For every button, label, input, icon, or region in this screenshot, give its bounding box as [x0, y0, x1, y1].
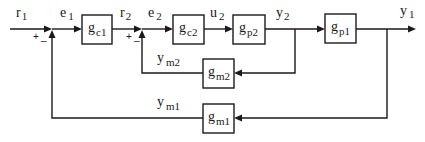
arrow-y2-icon — [317, 26, 325, 33]
arrow-gm2-in-icon — [234, 70, 242, 77]
arrow-y1-icon — [408, 26, 416, 33]
arrow-ym1-icon — [49, 30, 56, 38]
arrow-e1-icon — [74, 26, 82, 33]
label-r1: r1 — [16, 5, 27, 22]
inner-junction-minus: _ — [133, 31, 140, 42]
label-ym2: ym2 — [157, 50, 180, 68]
label-y2: y2 — [276, 5, 290, 22]
block-gp1: gp1 — [325, 14, 356, 43]
label-y1: y1 — [400, 3, 415, 20]
arrow-u2-icon — [225, 26, 233, 33]
block-gp2: gp2 — [233, 15, 265, 44]
label-ym1: ym1 — [157, 94, 180, 112]
inner-junction-plus: + — [126, 31, 132, 42]
arrow-e2-icon — [165, 26, 173, 33]
block-gc1: gc1 — [82, 15, 112, 44]
arrow-gm1-in-icon — [234, 115, 242, 122]
label-r2: r2 — [120, 5, 131, 22]
label-e2: e2 — [148, 5, 162, 22]
block-gc2: gc2 — [173, 15, 204, 44]
wire-ym1 — [52, 37, 203, 118]
outer-junction-minus: _ — [40, 31, 47, 42]
cascade-control-diagram: gc1 gc2 gp2 gp1 gm2 gm1 r1 e1 r2 e2 u2 y… — [0, 0, 425, 142]
block-gm1: gm1 — [203, 104, 234, 133]
block-gm2: gm2 — [203, 59, 234, 88]
label-u2: u2 — [210, 5, 225, 22]
outer-junction-plus: + — [33, 31, 39, 42]
label-e1: e1 — [60, 5, 74, 22]
